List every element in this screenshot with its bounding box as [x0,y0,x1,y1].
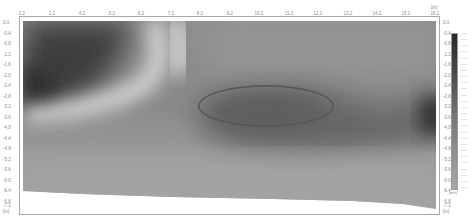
colorbar-tick: ‒‒‒ [461,100,467,104]
colorbar-tick: ‒‒‒ [461,186,467,190]
y-tick: -0.8 [443,42,451,47]
y-tick: -3.6 [3,115,11,120]
y-tick: -5.2 [3,157,11,162]
y-tick: -0.4 [443,31,451,36]
y-tick: -3.2 [443,105,451,110]
x-tick: 6.2 [138,12,144,17]
y-tick: -3.6 [443,115,451,120]
y-tick: -2.0 [3,73,11,78]
colorbar [451,33,458,190]
y-tick: -3.2 [3,105,11,110]
y-tick: -0.4 [3,31,11,36]
section-heatmap [23,21,436,212]
colorbar-tick: ‒‒‒ [461,45,467,49]
colorbar-tick: ‒‒‒ [461,155,467,159]
colorbar-tick: ‒‒‒ [461,32,467,36]
y-tick: -4.4 [3,136,11,141]
x-tick: 3.2 [49,12,55,17]
colorbar-tick: ‒‒‒ [461,63,467,67]
y-tick: -1.2 [443,52,451,57]
x-tick: 10.2 [255,12,264,17]
y-tick: -5.2 [443,157,451,162]
colorbar-tick: ‒‒‒ [461,131,467,135]
x-tick: 7.2 [168,12,174,17]
y-tick: -0.8 [3,42,11,47]
y-tick: -2.8 [3,94,11,99]
x-tick: 4.2 [79,12,85,17]
colorbar-unit: [m/s] [449,192,457,196]
y-tick: -4.0 [443,126,451,131]
section-image [23,21,436,212]
y-tick: -2.4 [443,84,451,89]
y-tick: -1.6 [443,63,451,68]
x-tick: 14.2 [373,12,382,17]
colorbar-tick: ‒‒‒ [461,106,467,110]
x-tick: 13.2 [344,12,353,17]
y-tick: -4.4 [443,136,451,141]
y-tick: -6.4 [3,189,11,194]
y-tick: -7.2 [443,204,451,209]
colorbar-tick: ‒‒‒ [461,57,467,61]
y-tick: -6.0 [3,178,11,183]
y-tick: -2.0 [443,73,451,78]
colorbar-tick: ‒‒‒ [461,125,467,129]
y-tick: -2.4 [3,84,11,89]
y-tick: -5.6 [3,168,11,173]
y-tick: -4.8 [3,147,11,152]
colorbar-tick: ‒‒‒ [461,143,467,147]
x-tick: 2.2 [19,12,25,17]
y-tick: -4.0 [3,126,11,131]
y-tick: -6.0 [443,178,451,183]
y-tick: 0.0 [3,21,9,26]
colorbar-tick: ‒‒‒ [461,112,467,116]
y-tick: -4.8 [443,147,451,152]
colorbar-tick: ‒‒‒ [461,88,467,92]
colorbar-tick: ‒‒‒ [461,81,467,85]
x-tick: 11.2 [285,12,293,17]
colorbar-tick: ‒‒‒ [461,69,467,73]
x-tick: 9.2 [227,12,233,17]
x-tick: 5.2 [109,12,115,17]
colorbar-tick: ‒‒‒ [461,118,467,122]
y-tick: 0.0 [443,21,449,26]
y-tick: -2.8 [443,94,451,99]
y-unit-label-left: [m] [3,210,9,215]
colorbar-tick: ‒‒‒ [461,162,467,166]
y-tick: -7.2 [3,204,11,209]
x-tick: 8.2 [197,12,203,17]
x-unit-label: [m] [431,6,437,11]
y-unit-label-right: [m] [443,210,449,215]
colorbar-tick: ‒‒‒ [461,38,467,42]
colorbar-tick: ‒‒‒ [461,137,467,141]
y-tick: -1.6 [3,63,11,68]
colorbar-tick: ‒‒‒ [461,174,467,178]
colorbar-tick: ‒‒‒ [461,51,467,55]
x-tick: 16.2 [431,12,440,17]
colorbar-tick: ‒‒‒ [461,180,467,184]
colorbar-tick: ‒‒‒ [461,149,467,153]
x-tick: 12.2 [314,12,323,17]
x-tick: 15.2 [402,12,411,17]
colorbar-tick: ‒‒‒ [461,75,467,79]
colorbar-tick: ‒‒‒ [461,168,467,172]
y-tick: -5.6 [443,168,451,173]
colorbar-tick: ‒‒‒ [461,94,467,98]
y-tick: -1.2 [3,52,11,57]
